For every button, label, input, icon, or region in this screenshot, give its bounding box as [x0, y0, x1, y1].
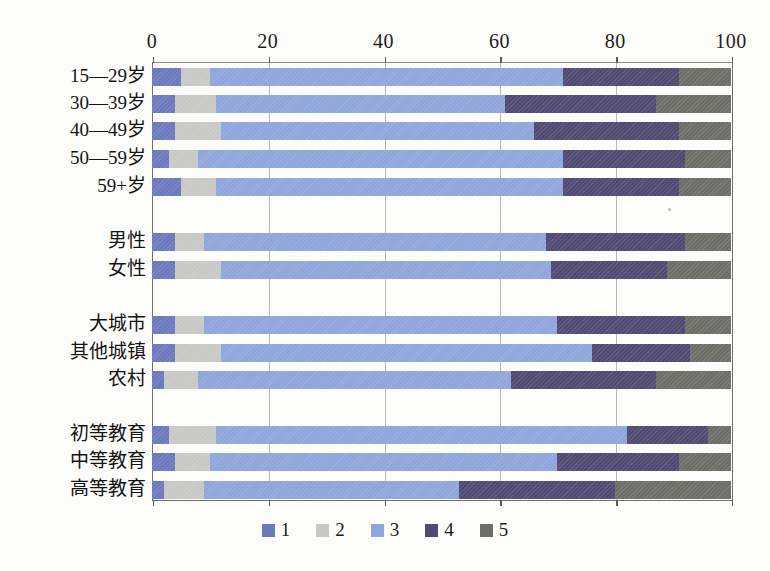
- bar-segment-3: [198, 150, 563, 168]
- row-label: 初等教育: [70, 425, 146, 443]
- bar-segment-3: [216, 426, 627, 444]
- row-label: 15—29岁: [70, 67, 146, 85]
- bar-segment-5: [685, 150, 731, 168]
- bar-segment-1: [152, 95, 175, 113]
- row-label: 男性: [108, 232, 146, 250]
- bar-segment-4: [563, 178, 679, 196]
- bar-segment-3: [210, 453, 557, 471]
- bar-segment-3: [204, 316, 557, 334]
- bar-row: [152, 233, 731, 251]
- legend-item-1[interactable]: 1: [262, 519, 291, 541]
- bar-segment-4: [563, 150, 685, 168]
- bar-row: [152, 426, 731, 444]
- bar-segment-4: [511, 371, 656, 389]
- legend-label: 1: [281, 519, 291, 541]
- bar-segment-4: [551, 261, 667, 279]
- legend-swatch-4: [425, 524, 438, 537]
- bar-segment-4: [557, 316, 684, 334]
- bar-segment-4: [557, 453, 679, 471]
- bar-segment-1: [152, 453, 175, 471]
- bar-segment-1: [152, 316, 175, 334]
- legend-label: 5: [499, 519, 509, 541]
- bar-segment-2: [164, 481, 205, 499]
- row-label: 农村: [108, 370, 146, 388]
- legend-swatch-1: [262, 524, 275, 537]
- bar-row: [152, 371, 731, 389]
- bar-segment-5: [685, 316, 731, 334]
- row-label: 其他城镇: [70, 343, 146, 361]
- legend-swatch-5: [480, 524, 493, 537]
- bar-segment-3: [204, 481, 459, 499]
- bar-row: [152, 68, 731, 86]
- bar-segment-1: [152, 178, 181, 196]
- row-label: 中等教育: [70, 452, 146, 470]
- bar-segment-2: [175, 95, 216, 113]
- legend-item-5[interactable]: 5: [480, 519, 509, 541]
- row-label: 高等教育: [70, 480, 146, 498]
- bar-segment-1: [152, 344, 175, 362]
- bar-segment-1: [152, 150, 169, 168]
- bar-row: [152, 344, 731, 362]
- bar-segment-3: [216, 178, 563, 196]
- bar-segment-5: [708, 426, 731, 444]
- bar-segment-3: [221, 344, 592, 362]
- bar-segment-4: [534, 122, 679, 140]
- bar-segment-2: [169, 426, 215, 444]
- scan-artifact-speck: [668, 208, 671, 211]
- bar-row: [152, 122, 731, 140]
- legend-swatch-3: [371, 524, 384, 537]
- bar-row: [152, 261, 731, 279]
- bar-segment-2: [164, 371, 199, 389]
- bar-segment-4: [505, 95, 656, 113]
- bar-segment-3: [221, 261, 551, 279]
- bar-segment-1: [152, 261, 175, 279]
- bar-segment-2: [169, 150, 198, 168]
- bar-row: [152, 481, 731, 499]
- bar-segment-1: [152, 371, 164, 389]
- bar-segment-5: [685, 233, 731, 251]
- legend-label: 3: [390, 519, 400, 541]
- bar-segment-3: [210, 68, 563, 86]
- bar-segment-3: [216, 95, 506, 113]
- bar-row: [152, 453, 731, 471]
- bar-segment-4: [546, 233, 685, 251]
- bar-segment-5: [615, 481, 731, 499]
- bar-segment-5: [679, 122, 731, 140]
- legend-swatch-2: [316, 524, 329, 537]
- bar-segment-2: [175, 122, 221, 140]
- bar-segment-1: [152, 233, 175, 251]
- row-label: 30—39岁: [70, 94, 146, 112]
- bar-segment-5: [679, 453, 731, 471]
- bar-segment-5: [679, 178, 731, 196]
- bar-segment-1: [152, 481, 164, 499]
- row-label: 50—59岁: [70, 149, 146, 167]
- bar-segment-3: [204, 233, 546, 251]
- legend-item-2[interactable]: 2: [316, 519, 345, 541]
- bar-row: [152, 95, 731, 113]
- bar-segment-5: [679, 68, 731, 86]
- row-label: 大城市: [89, 315, 146, 333]
- bar-segment-2: [175, 316, 204, 334]
- legend-label: 2: [335, 519, 345, 541]
- bar-segment-5: [656, 95, 731, 113]
- bar-segment-4: [592, 344, 690, 362]
- bar-segment-2: [175, 453, 210, 471]
- bar-segment-2: [175, 344, 221, 362]
- legend-item-3[interactable]: 3: [371, 519, 400, 541]
- stacked-bar-chart: 020406080100 15—29岁30—39岁40—49岁50—59岁59+…: [0, 0, 770, 571]
- bar-segment-4: [459, 481, 615, 499]
- bar-segment-5: [690, 344, 731, 362]
- row-label: 女性: [108, 260, 146, 278]
- bar-row: [152, 178, 731, 196]
- bar-segment-3: [198, 371, 511, 389]
- bar-segment-1: [152, 68, 181, 86]
- bar-segment-1: [152, 122, 175, 140]
- bar-segment-1: [152, 426, 169, 444]
- legend-label: 4: [444, 519, 454, 541]
- row-label: 40—49岁: [70, 121, 146, 139]
- bar-segment-2: [181, 68, 210, 86]
- bar-segment-2: [181, 178, 216, 196]
- bar-segment-3: [221, 122, 534, 140]
- bar-segment-4: [627, 426, 708, 444]
- legend-item-4[interactable]: 4: [425, 519, 454, 541]
